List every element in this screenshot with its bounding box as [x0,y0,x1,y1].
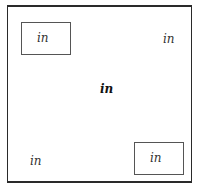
label-bottom-left: in [30,155,42,167]
label-top-right: in [163,33,175,45]
label-top-left: in [37,32,49,44]
label-center: in [100,83,113,95]
label-bottom-right: in [150,152,162,164]
